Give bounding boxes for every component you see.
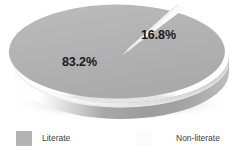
legend-item-non-literate[interactable]: Non-literate <box>136 130 220 146</box>
pie-chart-graphic <box>0 0 243 124</box>
legend-label-non-literate: Non-literate <box>176 133 220 143</box>
legend-swatch-literate <box>16 131 32 146</box>
pie-slice-literate[interactable] <box>9 5 225 99</box>
pie-chart-figure: 16.8% 83.2% Literate Non-literate <box>0 0 243 156</box>
chart-legend: Literate Non-literate <box>0 126 243 156</box>
legend-label-literate: Literate <box>42 133 70 143</box>
slice-value-label-non-literate: 16.8% <box>141 28 176 42</box>
pie-plot-area: 16.8% 83.2% <box>0 0 243 124</box>
legend-swatch-non-literate <box>136 131 152 146</box>
legend-item-literate[interactable]: Literate <box>16 130 70 146</box>
slice-value-label-literate: 83.2% <box>62 55 97 69</box>
